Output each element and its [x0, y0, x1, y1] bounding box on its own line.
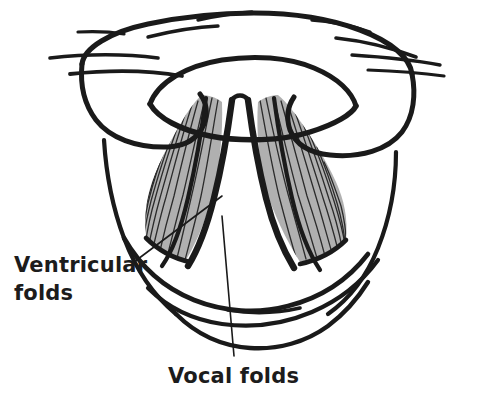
- leader-line-vocal-folds: [222, 216, 234, 356]
- larynx-svg: Ventricular folds Vocal folds: [0, 0, 480, 408]
- ventricular-folds-label-line2: folds: [14, 281, 73, 305]
- label-vocal-folds: Vocal folds: [168, 364, 299, 388]
- larynx-illustration: Ventricular folds Vocal folds: [0, 0, 480, 408]
- label-ventricular-folds: Ventricular folds: [14, 253, 148, 305]
- glottis: [232, 96, 248, 101]
- vocal-folds-label-line1: Vocal folds: [168, 364, 299, 388]
- posterior-wall: [124, 238, 378, 348]
- ventricular-folds-label-line1: Ventricular: [14, 253, 148, 277]
